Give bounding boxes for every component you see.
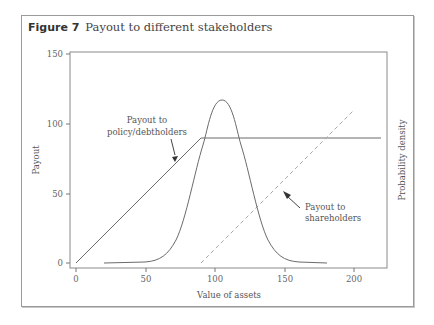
shareholder-arrow-icon (283, 191, 291, 199)
ytick-100: 100 (47, 119, 63, 129)
xtick-50: 50 (141, 274, 152, 284)
shareholder-payout-line (201, 110, 354, 263)
xtick-0: 0 (73, 274, 78, 284)
y-axis-label-left: Payout (31, 145, 41, 175)
y-axis-ticks (66, 54, 70, 263)
y-axis-label-right: Probability density (397, 119, 407, 200)
debtholder-annotation-line1: Payout to (127, 115, 167, 125)
ytick-50: 50 (52, 189, 63, 199)
shareholder-annotation-line1: Payout to (305, 202, 345, 212)
debtholder-annotation-line2: policy/debtholders (107, 127, 187, 137)
xtick-200: 200 (346, 274, 362, 284)
y-axis-tick-labels: 0 50 100 150 (47, 49, 63, 268)
x-axis-tick-labels: 0 50 100 150 200 (73, 274, 362, 284)
ytick-150: 150 (47, 49, 63, 59)
debtholder-payout-line (76, 138, 381, 263)
debtholder-arrow-icon (172, 156, 178, 162)
ytick-0: 0 (58, 258, 63, 268)
x-axis-ticks (76, 268, 354, 272)
shareholder-annotation-line2: shareholders (305, 213, 361, 223)
xtick-100: 100 (207, 274, 223, 284)
debtholder-arrow-shaft (171, 139, 175, 155)
chart: 0 50 100 150 0 50 100 150 200 Value of a… (0, 0, 434, 325)
shareholder-arrow-shaft (287, 196, 300, 208)
x-axis-label: Value of assets (196, 290, 261, 300)
xtick-150: 150 (277, 274, 293, 284)
